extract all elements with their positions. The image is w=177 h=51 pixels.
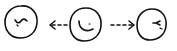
center-face (70, 8, 101, 41)
left-dashed-arrow (50, 21, 70, 29)
diagram-canvas (0, 0, 177, 51)
right-face-eye (160, 28, 162, 29)
right-dashed-arrow (111, 21, 134, 29)
left-face-mouth (15, 19, 27, 23)
right-face (137, 9, 166, 40)
center-face-smile (79, 21, 93, 31)
center-face-outline (70, 8, 101, 41)
right-face-outline (137, 9, 166, 40)
right-face-mouth (153, 21, 160, 25)
left-face-eye (17, 25, 18, 26)
left-face (5, 6, 37, 38)
